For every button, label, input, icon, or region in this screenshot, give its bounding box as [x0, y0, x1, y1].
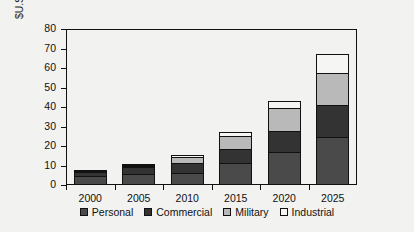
bar-segment-industrial — [122, 164, 155, 167]
bar-segment-industrial — [268, 101, 301, 109]
x-axis-tick-label: 2025 — [309, 192, 357, 204]
legend-label: Industrial — [292, 206, 335, 218]
bar-segment-military — [268, 108, 301, 132]
legend-item-military: Military — [223, 206, 268, 218]
bar-segment-military — [171, 157, 204, 165]
y-axis-tick-mark — [61, 166, 66, 167]
y-axis-tick-label: 50 — [44, 81, 56, 93]
bar-segment-personal — [316, 137, 349, 185]
legend-item-commercial: Commercial — [144, 206, 212, 218]
y-axis-tick-label: 80 — [44, 22, 56, 34]
bar-segment-commercial — [171, 163, 204, 174]
y-axis-tick-mark — [61, 88, 66, 89]
bar-stack — [74, 29, 107, 185]
bar-stack — [171, 29, 204, 185]
bar-segment-military — [316, 73, 349, 106]
bar-segment-industrial — [219, 132, 252, 137]
legend-item-personal: Personal — [80, 206, 133, 218]
y-axis-tick-mark — [61, 49, 66, 50]
bar-segment-personal — [219, 163, 252, 185]
legend-swatch-icon — [280, 208, 288, 216]
x-axis-tick-mark — [163, 185, 164, 190]
y-axis-tick-label: 40 — [44, 100, 56, 112]
legend-label: Commercial — [156, 206, 212, 218]
legend-label: Personal — [92, 206, 133, 218]
y-axis-tick-mark — [61, 107, 66, 108]
bar-stack — [122, 29, 155, 185]
bar-segment-commercial — [316, 105, 349, 138]
y-axis-tick-label: 70 — [44, 42, 56, 54]
legend-swatch-icon — [223, 208, 231, 216]
bar-segment-commercial — [122, 167, 155, 175]
bar-segment-industrial — [171, 155, 204, 157]
x-axis-tick-label: 2005 — [115, 192, 163, 204]
y-axis-tick-mark — [61, 127, 66, 128]
bar-segment-military — [219, 136, 252, 149]
bar-stack — [219, 29, 252, 185]
bar-segment-personal — [74, 176, 107, 185]
y-axis-title: $U.S. billions — [10, 0, 28, 66]
bar-segment-commercial — [219, 149, 252, 164]
bar-segment-personal — [268, 152, 301, 185]
x-axis-tick-label: 2000 — [66, 192, 114, 204]
y-axis-tick-mark — [61, 146, 66, 147]
plot-area — [66, 29, 357, 185]
legend-swatch-icon — [80, 208, 88, 216]
bar-stack — [316, 29, 349, 185]
bar-segment-industrial — [74, 170, 107, 172]
x-axis-tick-label: 2015 — [212, 192, 260, 204]
y-axis-tick-label: 0 — [50, 178, 56, 190]
bar-segment-personal — [122, 174, 155, 185]
bar-segment-industrial — [316, 54, 349, 74]
stacked-bar-chart: $U.S. billions PersonalCommercialMilitar… — [0, 0, 414, 232]
chart-legend: PersonalCommercialMilitaryIndustrial — [0, 206, 414, 218]
y-axis-tick-mark — [61, 29, 66, 30]
legend-item-industrial: Industrial — [280, 206, 335, 218]
legend-label: Military — [235, 206, 268, 218]
y-axis-tick-label: 60 — [44, 61, 56, 73]
bar-segment-personal — [171, 173, 204, 185]
y-axis-tick-label: 10 — [44, 159, 56, 171]
x-axis-tick-mark — [309, 185, 310, 190]
x-axis-tick-mark — [260, 185, 261, 190]
y-axis-tick-label: 30 — [44, 120, 56, 132]
x-axis-tick-label: 2010 — [163, 192, 211, 204]
bar-segment-commercial — [268, 131, 301, 153]
x-axis-tick-mark — [115, 185, 116, 190]
y-axis-tick-mark — [61, 68, 66, 69]
bar-stack — [268, 29, 301, 185]
x-axis-tick-mark — [66, 185, 67, 190]
y-axis-tick-label: 20 — [44, 139, 56, 151]
x-axis-tick-label: 2020 — [260, 192, 308, 204]
x-axis-tick-mark — [212, 185, 213, 190]
legend-swatch-icon — [144, 208, 152, 216]
